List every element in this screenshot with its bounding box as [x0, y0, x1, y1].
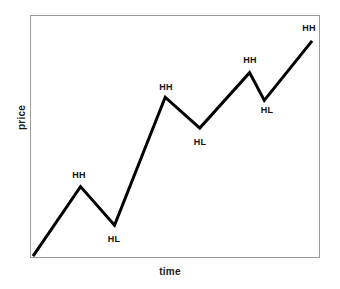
swing-label-hh-2: HH: [159, 82, 173, 92]
x-axis-label: time: [0, 266, 340, 277]
swing-label-hl-3: HL: [194, 137, 207, 147]
swing-label-hl-1: HL: [108, 234, 121, 244]
swing-label-hh-0: HH: [72, 170, 86, 180]
y-axis-label: price: [16, 88, 27, 148]
price-trend-chart: price HHHLHHHLHHHLHH time: [0, 0, 340, 289]
plot-area-frame: [30, 15, 320, 258]
swing-label-hh-6: HH: [302, 23, 316, 33]
swing-label-hl-5: HL: [261, 105, 274, 115]
swing-label-hh-4: HH: [243, 55, 257, 65]
